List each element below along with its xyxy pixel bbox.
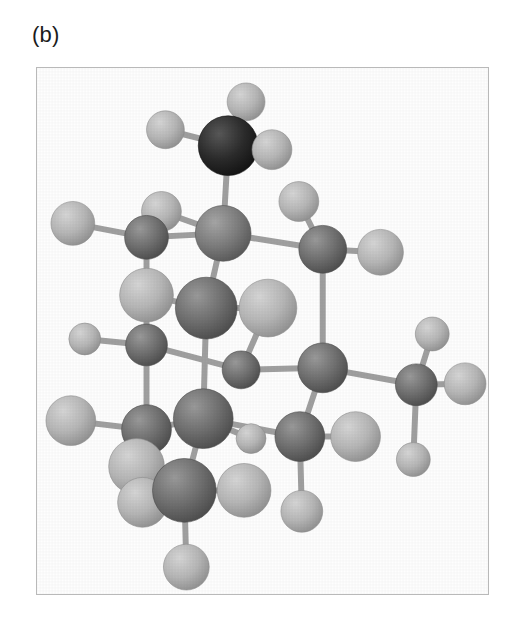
atom-sphere [252,130,292,170]
atom-sphere [236,424,266,454]
atom-sphere [358,229,404,275]
atom-sphere [163,544,209,590]
atom-sphere [298,343,348,393]
atom-sphere [152,459,216,523]
atom-sphere [396,443,430,477]
atom-sphere [331,412,381,462]
atom-sphere [217,463,271,517]
atom-sphere [227,83,265,121]
atom-sphere [125,215,169,259]
atom-sphere [275,412,325,462]
atom-sphere [147,111,185,149]
figure-root: (b) [0,0,517,618]
atom-sphere [299,225,347,273]
atom-sphere [195,205,251,261]
panel-label: (b) [32,22,60,48]
atom-sphere [222,351,260,389]
atom-sphere [69,323,101,355]
atom-sphere [444,363,486,405]
atom-sphere [395,364,437,406]
atom-sphere [198,116,258,176]
structure-frame [36,67,489,595]
atom-sphere [46,396,96,446]
molecule-diagram [37,68,488,594]
atom-sphere [239,279,297,337]
atom-sphere [175,277,237,339]
atom-sphere [415,317,449,351]
atom-sphere [126,324,168,366]
atom-layer [46,83,486,590]
atom-sphere [281,490,323,532]
atom-sphere [51,201,95,245]
atom-sphere [173,389,233,449]
atom-sphere [279,182,319,222]
atom-sphere [120,268,174,322]
